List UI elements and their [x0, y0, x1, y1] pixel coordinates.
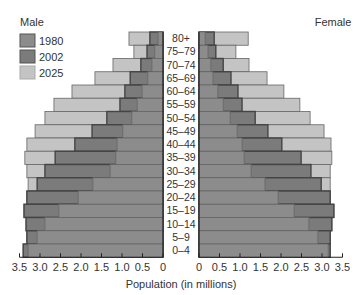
- male-label: Male: [20, 16, 44, 28]
- bar-female-1980-15–19: [199, 204, 294, 217]
- male-tick-label: 0.5: [135, 261, 150, 273]
- female-tick-label: 2.5: [294, 261, 309, 273]
- bar-female-1980-60–64: [199, 85, 218, 98]
- female-tick-label: 1.0: [232, 261, 247, 273]
- male-tick-label: 0: [160, 261, 166, 273]
- age-label: 30–34: [166, 165, 195, 177]
- bar-male-1980-20–24: [78, 191, 163, 204]
- legend: 1980 2002 2025: [20, 34, 63, 79]
- female-tick-label: 1.5: [253, 261, 268, 273]
- bar-male-1980-45–49: [123, 125, 163, 138]
- bar-female-1980-75–79: [199, 45, 208, 58]
- female-tick-label: 3.0: [314, 261, 329, 273]
- male-tick-label: 2.0: [73, 261, 88, 273]
- age-label: 65–69: [166, 72, 195, 84]
- male-tick-label: 3.5: [12, 261, 27, 273]
- age-label: 35–39: [166, 151, 195, 163]
- female-tick-label: 0: [196, 261, 202, 273]
- bar-female-1980-25–29: [199, 178, 265, 191]
- bar-male-1980-75–79: [155, 45, 163, 58]
- bar-male-1980-25–29: [93, 178, 163, 191]
- bar-female-1980-45–49: [199, 125, 237, 138]
- bar-male-1980-65–69: [148, 72, 163, 85]
- population-pyramid-chart: 80+75–7970–7465–6960–6455–5950–5445–4940…: [0, 0, 363, 295]
- male-tick-label: 3.0: [32, 261, 47, 273]
- bar-female-1980-0–4: [199, 244, 328, 257]
- age-group-labels: 80+75–7970–7465–6960–6455–5950–5445–4940…: [166, 32, 195, 256]
- bar-female-1980-80+: [199, 32, 205, 45]
- legend-label-1980: 1980: [39, 35, 63, 47]
- bar-male-1980-10–14: [45, 218, 163, 231]
- bar-female-1980-35–39: [199, 151, 244, 164]
- bar-female-1980-10–14: [199, 218, 309, 231]
- male-tick-label: 2.5: [53, 261, 68, 273]
- bar-male-1980-35–39: [116, 151, 163, 164]
- bar-female-1980-5–9: [199, 231, 318, 244]
- bar-male-1980-5–9: [37, 231, 163, 244]
- female-tick-label: 0.5: [212, 261, 227, 273]
- chart-canvas: 80+75–7970–7465–6960–6455–5950–5445–4940…: [0, 0, 363, 295]
- x-axis-title: Population (in millions): [126, 278, 237, 290]
- bar-female-1980-55–59: [199, 98, 223, 111]
- male-bars: [23, 32, 163, 257]
- age-label: 25–29: [166, 178, 195, 190]
- age-label: 70–74: [166, 59, 195, 71]
- legend-label-2025: 2025: [39, 67, 63, 79]
- age-label: 5–9: [172, 231, 190, 243]
- bar-male-1980-15–19: [59, 204, 163, 217]
- age-label: 10–14: [166, 218, 195, 230]
- age-label: 55–59: [166, 98, 195, 110]
- age-label: 50–54: [166, 112, 195, 124]
- female-tick-label: 3.5: [335, 261, 350, 273]
- bar-male-1980-50–54: [132, 112, 163, 125]
- legend-swatch-2025: [20, 66, 35, 79]
- legend-label-2002: 2002: [39, 51, 63, 63]
- bar-male-1980-70–74: [152, 59, 163, 72]
- bar-male-1980-30–34: [110, 165, 163, 178]
- female-label: Female: [315, 16, 352, 28]
- bar-male-1980-80+: [158, 32, 163, 45]
- female-tick-label: 2.0: [273, 261, 288, 273]
- bar-female-1980-40–44: [199, 138, 242, 151]
- male-tick-label: 1.0: [114, 261, 129, 273]
- age-label: 75–79: [166, 45, 195, 57]
- age-label: 60–64: [166, 85, 195, 97]
- age-label: 15–19: [166, 204, 195, 216]
- bar-female-1980-30–34: [199, 165, 251, 178]
- age-label: 20–24: [166, 191, 195, 203]
- bar-female-1980-70–74: [199, 59, 211, 72]
- legend-swatch-1980: [20, 34, 35, 47]
- bar-female-1980-50–54: [199, 112, 230, 125]
- bar-female-1980-65–69: [199, 72, 213, 85]
- bar-male-1980-55–59: [137, 98, 163, 111]
- age-label: 45–49: [166, 125, 195, 137]
- male-tick-label: 1.5: [94, 261, 109, 273]
- legend-swatch-2002: [20, 50, 35, 63]
- age-label: 0–4: [172, 244, 190, 256]
- female-bars: [199, 32, 334, 257]
- age-label: 80+: [172, 32, 190, 44]
- bar-female-1980-20–24: [199, 191, 278, 204]
- age-label: 40–44: [166, 138, 195, 150]
- bar-male-1980-60–64: [142, 85, 163, 98]
- bar-male-1980-40–44: [117, 138, 163, 151]
